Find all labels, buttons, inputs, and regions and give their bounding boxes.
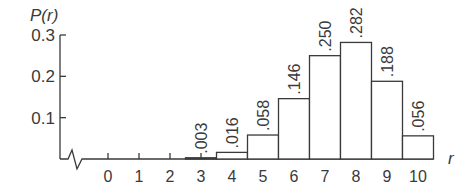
x-tick-label: 2 [166, 168, 175, 185]
x-tick-label: 10 [409, 168, 427, 185]
bar-value-label: .016 [224, 117, 241, 148]
y-tick-label: 0.2 [31, 67, 55, 86]
histogram-chart: P(r) 0.10.20.3 012345678910 .003.016.058… [0, 0, 467, 191]
x-tick-label: 3 [197, 168, 206, 185]
x-tick-label: 1 [135, 168, 144, 185]
bar [186, 158, 217, 159]
x-tick-label: 4 [228, 168, 237, 185]
x-tick-label: 9 [383, 168, 392, 185]
bar [403, 136, 434, 159]
bar-value-label: .056 [410, 101, 427, 132]
y-tick-label: 0.3 [31, 26, 55, 45]
bar-value-label: .003 [193, 123, 210, 154]
y-axis-label: P(r) [30, 6, 58, 25]
bar-value-label: .058 [255, 100, 272, 131]
bar [279, 99, 310, 159]
y-axis: 0.10.20.3 [31, 26, 66, 159]
bar [217, 152, 248, 159]
bar [248, 135, 279, 159]
y-tick-label: 0.1 [31, 109, 55, 128]
x-tick-label: 0 [104, 168, 113, 185]
bar-value-label: .282 [348, 7, 365, 38]
x-tick-label: 5 [259, 168, 268, 185]
x-tick-label: 7 [321, 168, 330, 185]
x-tick-label: 6 [290, 168, 299, 185]
bar-value-label: .146 [286, 63, 303, 94]
bar [310, 56, 341, 159]
bar [372, 81, 403, 159]
x-axis-label: r [448, 149, 455, 168]
bar [341, 42, 372, 159]
x-tick-label: 8 [352, 168, 361, 185]
bars: .003.016.058.146.250.282.188.056 [186, 7, 434, 159]
bar-value-label: .250 [317, 20, 334, 51]
bar-value-label: .188 [379, 46, 396, 77]
